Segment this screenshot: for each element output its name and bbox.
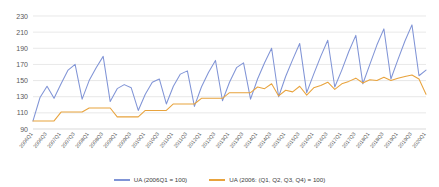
y-axis-tick-label: 210 [16, 29, 28, 36]
chart-legend: UA (2006Q1 = 100) UA (2006: (Q1, Q2, Q3,… [0, 177, 439, 183]
y-axis-tick-label: 150 [16, 77, 28, 84]
plot-area: 90110130150170190210230 2006Q12006Q32007… [0, 0, 439, 187]
legend-swatch-series-2 [209, 179, 225, 181]
y-axis-tick-label: 230 [16, 13, 28, 20]
quarterly-index-line-chart: 90110130150170190210230 2006Q12006Q32007… [0, 0, 439, 187]
legend-item-series-2: UA (2006: (Q1, Q2, Q3, Q4) = 100) [209, 177, 325, 183]
series-line-1 [33, 25, 426, 121]
legend-label-series-1: UA (2006Q1 = 100) [134, 177, 188, 183]
y-axis-tick-label: 170 [16, 61, 28, 68]
y-axis-tick-label: 130 [16, 93, 28, 100]
data-series [33, 25, 426, 121]
y-axis-tick-label: 190 [16, 45, 28, 52]
y-axis-tick-label: 90 [20, 126, 28, 133]
legend-label-series-2: UA (2006: (Q1, Q2, Q3, Q4) = 100) [229, 177, 325, 183]
x-axis-tick-label: 2010Q3 [144, 131, 160, 149]
y-axis-tick-labels: 90110130150170190210230 [16, 13, 28, 133]
x-axis-tick-label: 2020Q1 [411, 131, 427, 149]
legend-swatch-series-1 [114, 179, 130, 181]
x-axis-tick-labels: 2006Q12006Q32007Q12007Q32008Q12008Q32009… [18, 131, 427, 149]
y-axis-tick-label: 110 [17, 109, 28, 116]
x-axis-tick-label: 2011Q1 [158, 131, 174, 149]
legend-item-series-1: UA (2006Q1 = 100) [114, 177, 188, 183]
